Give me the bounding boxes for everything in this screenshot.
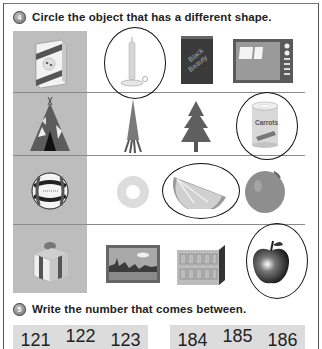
number-after: 186 [267,331,297,349]
number-between[interactable]: 122 [65,327,95,345]
volleyball-icon [30,170,70,212]
question-number-badge: 5 [13,303,26,316]
answer-circle [162,163,240,219]
building-block-icon [174,244,228,286]
question-5-header: 5 Write the number that comes between. [13,301,246,317]
number-sequence-group-1: 121 122 123 [13,325,148,349]
question-5-instruction: Write the number that comes between. [32,303,246,315]
page-border-right [318,3,319,349]
orange-icon [244,166,286,216]
pine-tree-icon [178,100,214,154]
number-between[interactable]: 185 [222,327,252,345]
television-icon [232,38,294,86]
number-sequence-group-2: 184 185 186 [170,325,305,349]
answer-circle [104,27,166,99]
cereal-box-icon [30,36,70,88]
carrot-icon [121,98,145,154]
number-before: 121 [20,331,50,349]
question-4-instruction: Circle the object that has a different s… [32,11,272,23]
pineapple-ring-icon [115,174,151,210]
page-border-left [3,3,4,349]
worksheet-page: 4 Circle the object that has a different… [0,0,322,349]
number-after: 123 [110,331,140,349]
framed-picture-icon [104,244,162,284]
answer-circle [246,223,308,299]
gift-box-icon [30,240,72,284]
question-4-header: 4 Circle the object that has a different… [13,9,272,25]
book-icon: Black Beauty [179,35,215,85]
answer-circle [236,92,298,160]
number-before: 184 [177,331,207,349]
row-divider [13,224,305,225]
teepee-icon [28,96,72,154]
page-border-top [3,3,319,4]
question-number-badge: 4 [13,11,26,24]
